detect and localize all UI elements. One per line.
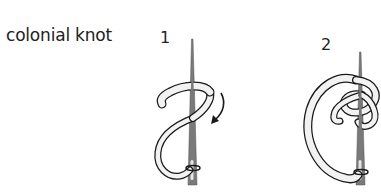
colonial-knot-illustration — [0, 0, 381, 194]
rotation-arrow-icon — [215, 93, 224, 120]
step-1-figure — [158, 39, 224, 185]
step-2-figure — [308, 52, 376, 185]
